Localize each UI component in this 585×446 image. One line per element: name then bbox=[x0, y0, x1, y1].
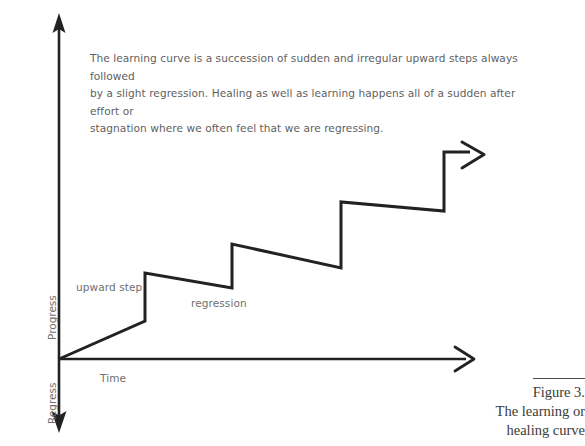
annotation-regression: regression bbox=[191, 297, 247, 309]
description-paragraph: The learning curve is a succession of su… bbox=[90, 50, 540, 138]
curve-end-arrow-icon bbox=[462, 142, 484, 168]
caption-line-1: The learning or bbox=[467, 402, 585, 421]
figure-caption: Figure 3. The learning or healing curve bbox=[467, 378, 585, 440]
caption-line-2: healing curve bbox=[467, 421, 585, 440]
annotation-upward-step: upward step bbox=[76, 281, 142, 293]
caption-rule bbox=[533, 378, 585, 379]
x-axis-label-time: Time bbox=[100, 372, 126, 384]
y-axis-label-progress: Progress bbox=[46, 295, 58, 340]
y-axis-label-regress: Regress bbox=[46, 383, 58, 424]
description-line-3: stagnation where we often feel that we a… bbox=[90, 120, 540, 138]
description-line-2: by a slight regression. Healing as well … bbox=[90, 85, 540, 120]
learning-curve-path bbox=[59, 152, 470, 359]
description-line-1: The learning curve is a succession of su… bbox=[90, 50, 540, 85]
caption-figure-number: Figure 3. bbox=[467, 383, 585, 402]
figure-page: The learning curve is a succession of su… bbox=[0, 0, 585, 446]
